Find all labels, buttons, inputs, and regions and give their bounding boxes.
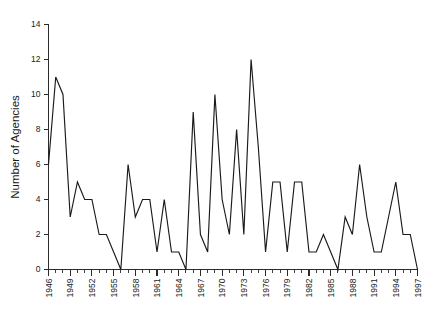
y-axis-tick-label: 12 bbox=[31, 54, 41, 64]
x-axis-tick-label: 1994 bbox=[391, 278, 401, 297]
x-axis-tick-label: 1997 bbox=[413, 278, 423, 297]
y-axis-tick-label: 8 bbox=[36, 124, 41, 134]
x-axis-tick-label: 1949 bbox=[65, 278, 75, 297]
x-axis-tick-label: 1979 bbox=[282, 278, 292, 297]
x-axis-tick-label: 1952 bbox=[87, 278, 97, 297]
y-axis-tick-label: 2 bbox=[36, 229, 41, 239]
x-axis-tick-label: 1985 bbox=[326, 278, 336, 297]
x-axis-tick-label: 1970 bbox=[217, 278, 227, 297]
x-axis-tick-label: 1955 bbox=[109, 278, 119, 297]
y-axis-tick-label: 6 bbox=[36, 159, 41, 169]
line-chart-plot: 0246810121419461949195219551958196119641… bbox=[0, 0, 434, 321]
y-axis-title: Number of Agencies bbox=[9, 95, 21, 199]
y-axis-tick-label: 10 bbox=[31, 89, 41, 99]
y-axis-tick-label: 0 bbox=[36, 264, 41, 274]
y-axis-tick-label: 14 bbox=[31, 19, 41, 29]
x-axis-tick-label: 1958 bbox=[131, 278, 141, 297]
chart-container: 0246810121419461949195219551958196119641… bbox=[0, 0, 434, 321]
data-series-line bbox=[49, 60, 418, 270]
x-axis-tick-label: 1982 bbox=[304, 278, 314, 297]
x-axis-tick-label: 1991 bbox=[369, 278, 379, 297]
x-axis-tick-label: 1976 bbox=[261, 278, 271, 297]
x-axis-tick-label: 1973 bbox=[239, 278, 249, 297]
x-axis-tick-label: 1961 bbox=[152, 278, 162, 297]
x-axis-tick-label: 1988 bbox=[348, 278, 358, 297]
y-axis-tick-label: 4 bbox=[36, 194, 41, 204]
x-axis-tick-label: 1946 bbox=[44, 278, 54, 297]
x-axis-tick-label: 1964 bbox=[174, 278, 184, 297]
x-axis-tick-label: 1967 bbox=[196, 278, 206, 297]
